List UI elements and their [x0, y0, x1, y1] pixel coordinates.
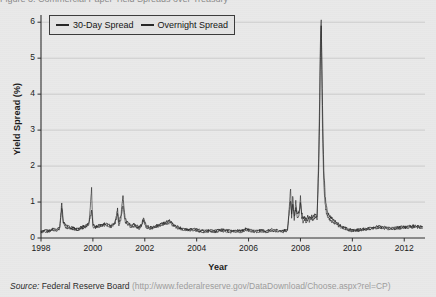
x-tick-label: 2002	[123, 243, 167, 253]
series-line-overnight	[41, 20, 422, 233]
gridlines	[41, 22, 425, 202]
source-prefix: Source:	[10, 281, 39, 291]
y-tick-label: 0	[13, 232, 35, 242]
clipped-title-label: Figure 3. Commercial Paper Yield Spreads…	[0, 0, 436, 4]
y-tick-label: 5	[13, 52, 35, 62]
legend-swatch-overnight	[141, 24, 154, 26]
x-tick-label: 2010	[330, 243, 374, 253]
x-axis-title: Year	[0, 262, 436, 272]
source-note: Source: Federal Reserve Board (http://ww…	[10, 281, 391, 291]
clipped-title-text: Figure 3. Commercial Paper Yield Spreads…	[0, 0, 436, 5]
series-line-30day	[41, 26, 422, 233]
data-series-layer	[41, 20, 422, 233]
plot-canvas	[0, 6, 436, 274]
x-tick-label: 2008	[278, 243, 322, 253]
x-tick-label: 1998	[19, 243, 63, 253]
legend-swatch-30day	[56, 24, 69, 26]
x-tick-label: 2012	[382, 243, 426, 253]
legend-entry-overnight: Overnight Spread	[141, 20, 229, 30]
x-tick-label: 2006	[227, 243, 271, 253]
source-url[interactable]: (http://www.federalreserve.gov/DataDownl…	[132, 281, 391, 291]
legend-label-overnight: Overnight Spread	[158, 20, 229, 30]
y-tick-label: 6	[13, 16, 35, 26]
x-tick-label: 2000	[71, 243, 115, 253]
y-axis-title: Yield Spread (%)	[12, 76, 22, 162]
chart-legend: 30-Day Spread Overnight Spread	[49, 15, 235, 35]
x-tick-label: 2004	[175, 243, 219, 253]
axis-lines	[41, 15, 425, 238]
source-publisher: Federal Reserve Board	[42, 281, 130, 291]
chart-container: 0123456 19982000200220042006200820102012…	[0, 6, 436, 274]
y-tick-label: 1	[13, 196, 35, 206]
legend-label-30day: 30-Day Spread	[73, 20, 134, 30]
legend-entry-30day: 30-Day Spread	[56, 20, 134, 30]
figure-page: Figure 3. Commercial Paper Yield Spreads…	[0, 0, 436, 297]
